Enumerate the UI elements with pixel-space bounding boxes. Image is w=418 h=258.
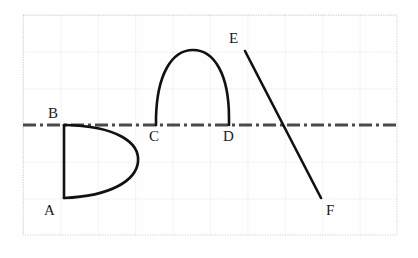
figure-canvas: A B C D E F [0, 0, 418, 258]
point-label-c: C [149, 129, 159, 144]
point-label-b: B [48, 106, 58, 121]
figure-drawing [0, 0, 418, 258]
point-label-a: A [44, 203, 55, 218]
point-label-e: E [229, 31, 238, 46]
point-label-d: D [223, 129, 234, 144]
point-label-f: F [326, 203, 334, 218]
